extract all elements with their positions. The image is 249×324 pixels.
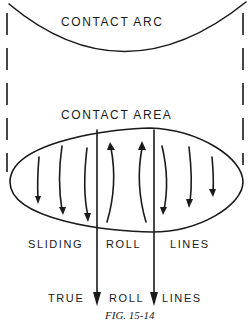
contact-diagram xyxy=(0,0,249,324)
arrow-head-down-icon xyxy=(84,213,91,222)
arrow-head-down-icon xyxy=(160,207,167,215)
arrow-head-down-icon xyxy=(35,196,41,204)
sliding-arrow-right-1 xyxy=(162,146,167,210)
sliding-arrow-right-3 xyxy=(212,157,213,192)
sliding-arrow-right-2 xyxy=(189,147,191,202)
sliding-arrow-center-left xyxy=(107,148,114,222)
roll-label: ROLL xyxy=(106,239,141,250)
sliding-arrow-center-right xyxy=(139,148,146,222)
arrow-head-up-icon xyxy=(107,142,115,150)
figure-caption: FIG. 15-14 xyxy=(105,310,155,321)
arrow-head-down-icon xyxy=(150,292,158,306)
arrow-head-down-icon xyxy=(209,189,216,197)
arrow-head-down-icon xyxy=(59,207,66,215)
arrow-head-down-icon xyxy=(186,199,193,208)
roll-label-2: ROLL xyxy=(109,293,144,304)
sliding-arrow-left-2 xyxy=(60,146,63,210)
sliding-arrow-left-3 xyxy=(85,148,88,216)
contact-area-label: CONTACT AREA xyxy=(61,109,172,121)
sliding-label: SLIDING xyxy=(28,239,83,250)
sliding-arrow-left-1 xyxy=(38,157,39,198)
arrow-head-down-icon xyxy=(93,292,101,306)
contact-area-outline xyxy=(10,128,243,232)
arrow-head-up-icon xyxy=(138,141,146,150)
lines-label: LINES xyxy=(170,239,210,250)
true-label: TRUE xyxy=(48,293,84,304)
contact-arc-label: CONTACT ARC xyxy=(61,16,164,28)
lines-label-2: LINES xyxy=(162,293,202,304)
